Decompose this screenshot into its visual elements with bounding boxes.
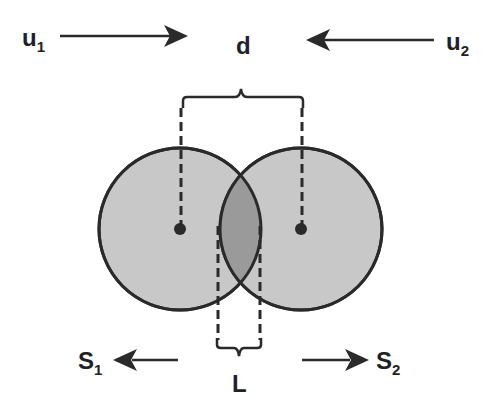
u1-label: u1	[22, 24, 45, 55]
d-brace	[183, 89, 303, 108]
center-dot-1	[174, 223, 186, 235]
s1-label: S1	[78, 347, 102, 378]
s1-arrow	[113, 349, 178, 371]
u2-label: u2	[446, 28, 469, 59]
s2-arrow	[302, 349, 369, 371]
u2-arrow	[306, 29, 434, 51]
s2-label: S2	[376, 347, 400, 378]
u1-arrow	[60, 25, 188, 47]
d-label: d	[236, 32, 251, 59]
L-label: L	[232, 370, 247, 397]
L-brace	[217, 338, 261, 356]
center-dot-2	[295, 223, 307, 235]
particle-collision-diagram: u1 u2 d L S1 S2	[0, 0, 489, 407]
